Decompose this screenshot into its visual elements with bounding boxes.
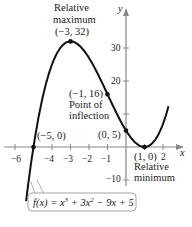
x-tick-label: −4 (44, 154, 54, 164)
annotation-point-of-inflection: (−1, 16) Point of inflection (69, 88, 110, 121)
svg-text:(−3, 32): (−3, 32) (55, 26, 89, 38)
key-point (124, 128, 129, 133)
svg-text:maximum: maximum (53, 14, 96, 25)
x-axis (4, 144, 184, 150)
x-tick-label: −1 (101, 154, 111, 164)
formula-callout: f(x) = x3 + 3x2 − 9x + 5 (28, 180, 136, 211)
y-tick-label: 20 (111, 76, 121, 86)
x-tick-label: −2 (82, 154, 92, 164)
x-axis-label: x (179, 147, 185, 158)
svg-text:Relative: Relative (134, 161, 169, 172)
key-point (105, 92, 110, 97)
svg-text:Point of: Point of (69, 99, 103, 110)
svg-text:Relative: Relative (54, 2, 89, 13)
x-tick-label: −3 (63, 154, 73, 164)
svg-text:minimum: minimum (134, 172, 175, 183)
y-axis-label: y (117, 3, 123, 14)
annotation-x-intercept: (−5, 0) (37, 130, 66, 142)
annotation-relative-minimum: (1, 0) Relative minimum (134, 151, 175, 183)
key-point (142, 145, 147, 150)
y-axis (123, 8, 129, 186)
y-tick-label: −10 (106, 174, 121, 184)
annotation-y-intercept: (0, 5) (98, 129, 121, 141)
key-point (31, 145, 36, 150)
svg-text:inflection: inflection (69, 110, 110, 121)
formula-label: f(x) = x3 + 3x2 − 9x + 5 (33, 196, 134, 209)
key-point (68, 39, 73, 44)
annotation-relative-maximum: Relative maximum (−3, 32) (53, 2, 96, 38)
y-tick-label: 30 (111, 43, 121, 53)
chart: x y −6 −4 −3 −2 −1 2 −10 20 30 Relative … (0, 0, 192, 227)
x-tick-label: −6 (11, 154, 21, 164)
